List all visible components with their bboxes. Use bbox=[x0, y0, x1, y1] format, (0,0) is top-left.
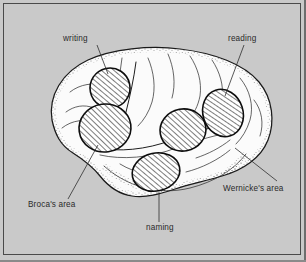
brain-illustration: writingreadingBroca's areanamingWernicke… bbox=[0, 0, 306, 262]
label-wernickes-area: Wernicke's area bbox=[223, 184, 284, 193]
label-reading: reading bbox=[228, 34, 257, 43]
label-brocas-area: Broca's area bbox=[28, 200, 76, 209]
label-naming: naming bbox=[146, 223, 174, 232]
label-writing: writing bbox=[62, 34, 88, 43]
brain-diagram-figure: writingreadingBroca's areanamingWernicke… bbox=[0, 0, 306, 262]
